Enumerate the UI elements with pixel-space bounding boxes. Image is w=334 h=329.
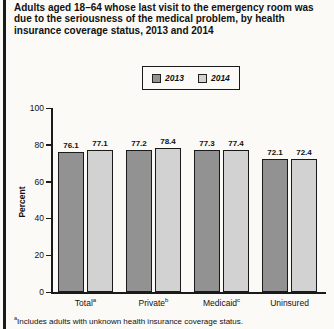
bar-2014-total [87,150,113,292]
bar-2014-uninsured [291,159,317,292]
y-tick-label: 60 [22,177,44,187]
y-tick-label: 40 [22,213,44,223]
y-tick-label: 80 [22,140,44,150]
y-tick [46,218,51,220]
bar-2013-medicaid [194,150,220,292]
y-tick-label: 20 [22,250,44,260]
bar-2013-private [126,150,152,292]
y-axis [51,108,53,294]
bar-value-label: 72.4 [284,148,324,157]
y-tick [46,292,51,294]
y-tick-label: 0 [22,287,44,297]
y-tick-label: 100 [22,103,44,113]
x-category-label: Totala [52,298,120,308]
x-category-label: Privateb [120,298,188,308]
bar-2014-private [155,148,181,292]
chart: Percent 02040608010076.177.1Totala77.278… [0,0,334,329]
y-tick [46,181,51,183]
x-category-label: Uninsured [256,298,324,308]
bar-value-label: 78.4 [148,137,188,146]
footnote-text: Includes adults with unknown health insu… [17,317,243,326]
bar-2013-total [58,152,84,292]
y-tick [46,108,51,110]
x-category-label: Medicaidc [188,298,256,308]
bar-value-label: 77.1 [80,139,120,148]
y-tick [46,255,51,257]
figure: Adults aged 18–64 whose last visit to th… [0,0,334,329]
bar-2014-medicaid [223,150,249,292]
footnote: aIncludes adults with unknown health ins… [14,317,330,326]
x-axis [51,292,326,294]
bar-2013-uninsured [262,159,288,292]
bar-value-label: 77.4 [216,139,256,148]
